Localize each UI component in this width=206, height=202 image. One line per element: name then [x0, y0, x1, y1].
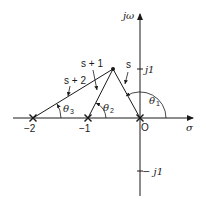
label-s2-pointer — [68, 86, 70, 96]
neg2-label: −2 — [24, 123, 36, 134]
vector-s-label: s — [126, 59, 131, 70]
theta2-label: θ 2 — [103, 102, 114, 114]
jw-axis-label: jω — [121, 10, 134, 21]
sigma-axis-label: σ — [186, 122, 194, 133]
theta3-arc — [57, 104, 61, 118]
neg-j1-label: − j1 — [142, 166, 163, 177]
vector-s2-label: s + 2 — [64, 75, 86, 86]
theta3-label: θ 3 — [63, 103, 74, 115]
svg-text:2: 2 — [110, 107, 114, 114]
svg-text:θ: θ — [103, 102, 109, 113]
j1-label: j1 — [143, 64, 154, 75]
svg-text:θ: θ — [149, 95, 155, 106]
svg-text:θ: θ — [63, 103, 69, 114]
s-plane-diagram: jω σ j1 − j1 O −1 −2 s s + 1 s + 2 θ 1 θ… — [0, 0, 206, 202]
svg-text:1: 1 — [156, 100, 160, 107]
label-s-pointer — [125, 72, 128, 84]
neg1-label: −1 — [79, 123, 91, 134]
label-s1-pointer — [93, 70, 97, 90]
origin-label: O — [141, 122, 149, 133]
theta1-arc — [126, 92, 166, 118]
vector-s1-label: s + 1 — [81, 58, 103, 69]
test-point — [111, 67, 115, 71]
svg-text:3: 3 — [70, 108, 74, 115]
vector-s — [113, 69, 140, 118]
theta1-label: θ 1 — [149, 95, 160, 107]
